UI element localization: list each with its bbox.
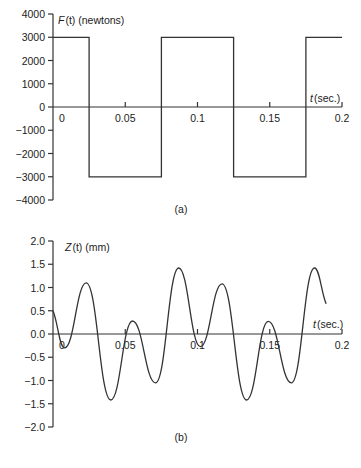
- y-tick-label: 0: [39, 101, 45, 113]
- y-tick-label: −1000: [16, 124, 46, 136]
- y-axis-title: F(t) (newtons): [58, 14, 124, 26]
- y-tick-label: 2000: [22, 55, 46, 67]
- figure: 40003000200010000−1000−2000−3000−4000 00…: [0, 0, 361, 468]
- y-tick-label: −1.0: [24, 375, 45, 387]
- x-axis-title: t(sec.): [310, 92, 340, 104]
- y-tick-label: −1.5: [24, 398, 45, 410]
- y-tick-label: −0.5: [24, 351, 45, 363]
- panel-b-displacement-chart: 2.01.51.00.50.0−0.5−1.0−1.5−2.0 00.050.1…: [24, 235, 349, 443]
- y-tick-label: −2000: [16, 148, 46, 160]
- y-tick-label: −2.0: [24, 421, 45, 433]
- x-tick-label: 0.1: [190, 112, 205, 124]
- y-axis: 40003000200010000−1000−2000−3000−4000: [16, 8, 54, 206]
- x-tick-label: 0.2: [335, 112, 350, 124]
- y-tick-label: 0.5: [30, 305, 45, 317]
- y-tick-label: 1.0: [30, 282, 45, 294]
- y-tick-label: 0.0: [30, 328, 45, 340]
- panel-caption-a: (a): [175, 203, 188, 215]
- x-tick-label: 0.2: [335, 339, 350, 351]
- y-tick-label: 2.0: [30, 235, 45, 247]
- x-tick-label: 0.15: [260, 112, 281, 124]
- x-tick-label: 0.05: [115, 112, 136, 124]
- y-tick-label: 1.5: [30, 258, 45, 270]
- panel-a-force-chart: 40003000200010000−1000−2000−3000−4000 00…: [16, 8, 350, 215]
- x-tick-label: 0: [59, 112, 65, 124]
- y-tick-label: −4000: [16, 194, 46, 206]
- x-axis-title: t(sec.): [313, 318, 343, 330]
- y-axis-title: Z(t) (mm): [64, 241, 110, 253]
- panel-caption-b: (b): [175, 431, 188, 443]
- y-tick-label: 4000: [22, 8, 46, 20]
- y-tick-label: 3000: [22, 31, 46, 43]
- y-tick-label: 1000: [22, 78, 46, 90]
- y-tick-label: −3000: [16, 171, 46, 183]
- y-axis: 2.01.51.00.50.0−0.5−1.0−1.5−2.0: [24, 235, 53, 433]
- x-axis: 00.050.10.150.2: [53, 102, 349, 124]
